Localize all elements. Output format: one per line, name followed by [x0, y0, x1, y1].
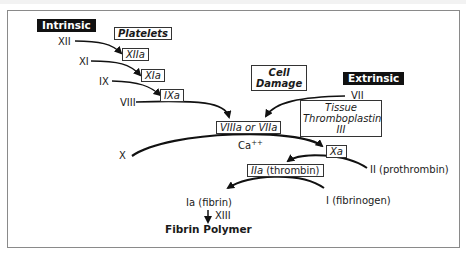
tissue-line-2: Thromboplastin — [303, 113, 379, 124]
tissue-thromboplastin-box: Tissue Thromboplastin III — [300, 100, 382, 137]
calcium-label: Ca++ — [238, 138, 263, 151]
thrombin-iia: IIa — [251, 165, 263, 176]
factor-xii: XII — [58, 36, 71, 47]
calcium-charge: ++ — [251, 139, 263, 147]
thrombin-box: IIa (thrombin) — [247, 164, 324, 177]
fibrin-label: Ia (fibrin) — [186, 197, 232, 208]
intrinsic-label: Intrinsic — [37, 19, 96, 32]
factor-x: X — [119, 150, 126, 161]
factor-viii: VIII — [120, 97, 136, 108]
factor-xi: XI — [79, 56, 89, 67]
factor-xiii: XIII — [215, 210, 231, 221]
tissue-line-3: III — [303, 124, 379, 135]
fibrin-polymer-label: Fibrin Polymer — [165, 224, 252, 235]
fibrinogen-label: I (fibrinogen) — [326, 195, 391, 206]
cell-damage-line-1: Cell — [256, 67, 302, 78]
prothrombin-label: II (prothrombin) — [370, 164, 449, 175]
extrinsic-label: Extrinsic — [343, 72, 404, 85]
factor-ixa-box: IXa — [160, 89, 184, 102]
cell-damage-box: Cell Damage — [251, 65, 307, 91]
factor-ix: IX — [99, 76, 109, 87]
factor-xa-box: Xa — [326, 145, 347, 158]
thrombin-name: (thrombin) — [263, 165, 319, 176]
platelets-box: Platelets — [114, 27, 172, 40]
viiia-or-viia-box: VIIIa or VIIa — [216, 121, 281, 134]
tissue-line-1: Tissue — [303, 102, 379, 113]
cell-damage-line-2: Damage — [256, 78, 302, 89]
factor-xiia-box: XIIa — [122, 48, 149, 61]
factor-xia-box: XIa — [141, 69, 165, 82]
calcium-text: Ca — [238, 140, 251, 151]
